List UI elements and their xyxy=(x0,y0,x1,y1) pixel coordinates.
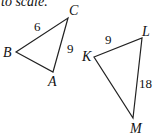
vertex-label-k: K xyxy=(81,49,92,64)
similar-triangles-diagram: to scale. B C A 6 9 K L M 9 18 xyxy=(0,0,155,136)
triangle-abc xyxy=(16,18,68,72)
vertex-label-b: B xyxy=(3,45,12,60)
side-kl-length: 9 xyxy=(105,32,112,47)
triangle-klm xyxy=(94,38,142,118)
vertex-label-c: C xyxy=(69,3,79,18)
side-lm-length: 18 xyxy=(139,76,152,91)
vertex-label-m: M xyxy=(129,121,143,136)
vertex-label-a: A xyxy=(47,74,57,89)
side-ca-length: 9 xyxy=(67,41,74,56)
vertex-label-l: L xyxy=(141,24,150,39)
caption-fragment: to scale. xyxy=(1,0,48,9)
side-bc-length: 6 xyxy=(34,19,41,34)
